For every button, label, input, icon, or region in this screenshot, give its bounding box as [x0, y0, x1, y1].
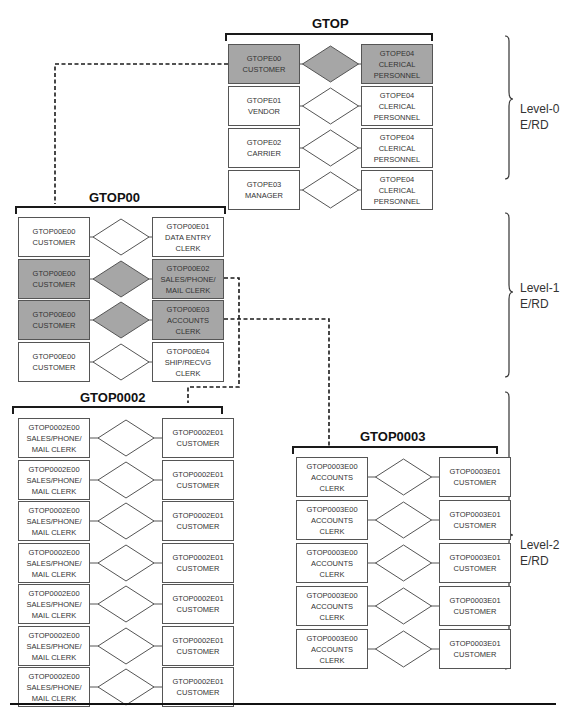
entity-text: GTOPE04	[380, 174, 414, 185]
level-0-line2: E/RD	[520, 117, 559, 133]
entity-box-right: GTOP0002E01CUSTOMER	[162, 460, 234, 500]
entity-box-left: GTOP0002E00SALES/PHONE/MAIL CLERK	[18, 543, 90, 583]
entity-text: CUSTOMER	[177, 604, 220, 615]
entity-text: GTOP0002E01	[172, 510, 223, 521]
entity-box-right: GTOP0002E01CUSTOMER	[162, 584, 234, 624]
entity-text: GTOP0003E00	[306, 633, 357, 644]
entity-text: SALES/PHONE/	[26, 641, 81, 652]
entity-text: CUSTOMER	[33, 279, 76, 290]
entity-text: CUSTOMER	[177, 646, 220, 657]
entity-box-right: GTOP0002E01CUSTOMER	[162, 667, 234, 707]
entity-text: CUSTOMER	[33, 320, 76, 331]
brace-level-0	[505, 36, 513, 179]
entity-text: GTOP0002E00	[28, 464, 79, 475]
entity-box-left: GTOP0003E00ACCOUNTSCLERK	[296, 629, 368, 669]
entity-text: GTOP0002E00	[28, 588, 79, 599]
relationship-diamond-icon	[98, 586, 154, 622]
level-label-1: Level-1 E/RD	[520, 280, 559, 312]
entity-text: GTOP0003E01	[449, 466, 500, 477]
entity-text: CUSTOMER	[177, 480, 220, 491]
bracket-gtop0003	[292, 446, 498, 454]
entity-text: CLERICAL	[379, 185, 416, 196]
entity-text: MAIL CLERK	[32, 444, 76, 455]
entity-text: GTOP0002E00	[28, 547, 79, 558]
entity-text: GTOP00E00	[33, 351, 76, 362]
entity-text: GTOP00E02	[167, 263, 210, 274]
entity-text: GTOP0002E00	[28, 671, 79, 682]
entity-text: SHIP/RECVG	[165, 357, 211, 368]
entity-text: GTOPE04	[380, 48, 414, 59]
entity-text: GTOP00E00	[33, 309, 76, 320]
level-1-line1: Level-1	[520, 280, 559, 296]
entity-text: GTOP0003E00	[306, 590, 357, 601]
entity-box-left: GTOP0002E00SALES/PHONE/MAIL CLERK	[18, 667, 90, 707]
entity-text: GTOPE02	[247, 137, 281, 148]
entity-text: GTOPE00	[247, 53, 281, 64]
entity-text: GTOP0003E01	[449, 509, 500, 520]
entity-box-left: GTOP0003E00ACCOUNTSCLERK	[296, 586, 368, 626]
entity-text: CUSTOMER	[454, 606, 497, 617]
entity-text: SALES/PHONE/	[26, 475, 81, 486]
entity-text: SALES/PHONE/	[26, 558, 81, 569]
entity-box-right: GTOP0003E01CUSTOMER	[439, 629, 511, 669]
relationship-diamond-icon	[98, 462, 154, 498]
entity-text: CUSTOMER	[177, 438, 220, 449]
group-title-gtop: GTOP	[312, 16, 349, 31]
relationship-diamond-icon	[303, 130, 359, 166]
entity-box-left: GTOPE00CUSTOMER	[228, 44, 300, 84]
bracket-gtop	[225, 33, 433, 41]
entity-text: PERSONNEL	[374, 154, 420, 165]
entity-text: CUSTOMER	[33, 237, 76, 248]
entity-text: CLERK	[175, 326, 200, 337]
entity-text: GTOP00E00	[33, 226, 76, 237]
entity-box-left: GTOP00E00CUSTOMER	[18, 342, 90, 382]
entity-text: CLERK	[175, 243, 200, 254]
entity-box-right: GTOP0003E01CUSTOMER	[439, 500, 511, 540]
entity-text: ACCOUNTS	[311, 644, 353, 655]
entity-box-right: GTOPE04CLERICALPERSONNEL	[361, 128, 433, 168]
entity-box-right: GTOP00E04SHIP/RECVGCLERK	[152, 342, 224, 382]
entity-box-right: GTOP0003E01CUSTOMER	[439, 457, 511, 497]
entity-text: ACCOUNTS	[311, 558, 353, 569]
entity-text: GTOP0002E01	[172, 635, 223, 646]
entity-text: GTOP0003E01	[449, 595, 500, 606]
entity-text: ACCOUNTS	[311, 515, 353, 526]
entity-text: GTOP0002E01	[172, 427, 223, 438]
entity-box-left: GTOP0002E00SALES/PHONE/MAIL CLERK	[18, 418, 90, 458]
entity-text: CLERK	[319, 569, 344, 580]
relationship-diamond-icon	[93, 302, 149, 338]
entity-text: GTOPE04	[380, 132, 414, 143]
relationship-diamond-icon	[376, 502, 432, 538]
entity-text: SALES/PHONE/	[26, 433, 81, 444]
level-label-2: Level-2 E/RD	[520, 537, 559, 569]
entity-text: GTOP0002E00	[28, 505, 79, 516]
entity-text: GTOP0002E01	[172, 469, 223, 480]
entity-box-right: GTOP0002E01CUSTOMER	[162, 543, 234, 583]
brace-level-1	[505, 213, 513, 377]
entity-text: GTOP0003E00	[306, 504, 357, 515]
entity-box-left: GTOP0003E00ACCOUNTSCLERK	[296, 543, 368, 583]
entity-text: GTOP0002E01	[172, 593, 223, 604]
relationship-diamond-icon	[303, 172, 359, 208]
entity-text: CLERK	[319, 483, 344, 494]
entity-text: GTOP0002E00	[28, 422, 79, 433]
entity-box-right: GTOPE04CLERICALPERSONNEL	[361, 44, 433, 84]
entity-text: CARRIER	[247, 148, 281, 159]
entity-text: CLERK	[319, 526, 344, 537]
level-label-0: Level-0 E/RD	[520, 101, 559, 133]
entity-box-right: GTOPE04CLERICALPERSONNEL	[361, 86, 433, 126]
entity-box-right: GTOP00E03ACCOUNTSCLERK	[152, 300, 224, 340]
group-title-gtop0002: GTOP0002	[80, 390, 146, 405]
entity-box-left: GTOPE02CARRIER	[228, 128, 300, 168]
entity-text: CUSTOMER	[454, 649, 497, 660]
entity-text: GTOP00E03	[167, 304, 210, 315]
entity-text: CUSTOMER	[177, 521, 220, 532]
entity-text: MAIL CLERK	[166, 285, 210, 296]
entity-text: MAIL CLERK	[32, 486, 76, 497]
entity-text: CLERICAL	[379, 101, 416, 112]
relationship-diamond-icon	[303, 88, 359, 124]
bracket-gtop0002	[12, 406, 223, 414]
group-title-gtop00: GTOP00	[89, 190, 140, 205]
entity-text: MAIL CLERK	[32, 610, 76, 621]
entity-text: GTOP0003E01	[449, 638, 500, 649]
